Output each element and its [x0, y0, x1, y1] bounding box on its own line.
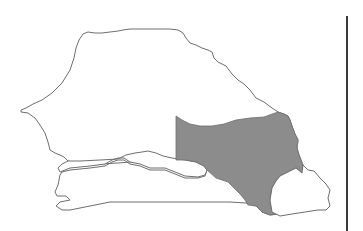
senegal-map: [0, 0, 363, 231]
page-divider-line: [346, 16, 348, 231]
